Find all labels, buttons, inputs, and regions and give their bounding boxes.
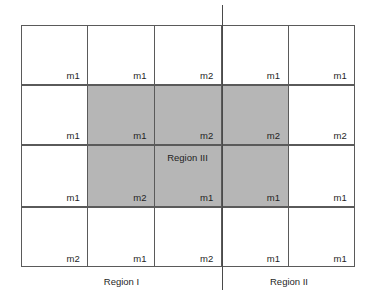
grid-row: m1 m1 m2 m2 m2: [21, 85, 355, 145]
cell-label: m1: [334, 253, 347, 264]
cell-label: m2: [200, 253, 213, 264]
grid-cell-r4c3: m2: [155, 207, 222, 267]
cell-label: m2: [200, 130, 213, 141]
grid-cell-r2c3: m2: [155, 85, 222, 144]
cell-label: m1: [66, 130, 79, 141]
grid-cell-r3c1: m1: [21, 145, 88, 206]
cell-label: m1: [133, 130, 146, 141]
cell-label: m1: [334, 70, 347, 81]
grid-cell-r2c5: m2: [288, 85, 355, 144]
cell-label: m1: [267, 192, 280, 203]
grid-cell-r2c1: m1: [21, 85, 88, 144]
cell-label: m1: [133, 70, 146, 81]
grid-cell-r1c2: m1: [88, 25, 155, 84]
cell-label: m1: [66, 192, 79, 203]
grid-cell-r1c4: m1: [221, 25, 288, 84]
grid-row: m1 m1 m2 m1 m1: [21, 25, 355, 85]
cell-label: m1: [334, 192, 347, 203]
region-one-caption: Region I: [21, 276, 222, 288]
region-divider-line: [222, 5, 223, 290]
cell-label: m1: [66, 70, 79, 81]
grid-cell-r2c4: m2: [221, 85, 288, 144]
grid-cell-r4c2: m1: [88, 207, 155, 267]
cell-label: m1: [200, 192, 213, 203]
cell-label: m2: [133, 192, 146, 203]
grid-cell-r4c5: m1: [288, 207, 355, 267]
grid-row: m2 m1 m2 m1 m1: [21, 207, 355, 267]
grid-cell-r3c5: m1: [288, 145, 355, 206]
cell-label: m1: [133, 253, 146, 264]
grid-cell-r4c1: m2: [21, 207, 88, 267]
cell-label: m2: [66, 253, 79, 264]
cell-label: m1: [267, 70, 280, 81]
cell-label: m2: [200, 70, 213, 81]
cell-label: m2: [334, 130, 347, 141]
cell-label: m1: [267, 253, 280, 264]
grid-cell-r1c1: m1: [21, 25, 88, 84]
region-partition-diagram: m1 m1 m2 m1 m1 m1 m1 m2 m2 m2 m1 m2 m1 m…: [0, 0, 376, 308]
grid-cell-r1c5: m1: [288, 25, 355, 84]
cell-labels-layer: m1 m1 m2 m1 m1 m1 m1 m2 m2 m2 m1 m2 m1 m…: [21, 25, 355, 267]
grid-cell-r1c3: m2: [155, 25, 222, 84]
region-two-caption: Region II: [223, 276, 355, 288]
grid-cell-r2c2: m1: [88, 85, 155, 144]
cell-label: m2: [267, 130, 280, 141]
grid-cell-r4c4: m1: [221, 207, 288, 267]
region-three-label: Region III: [87, 152, 288, 163]
